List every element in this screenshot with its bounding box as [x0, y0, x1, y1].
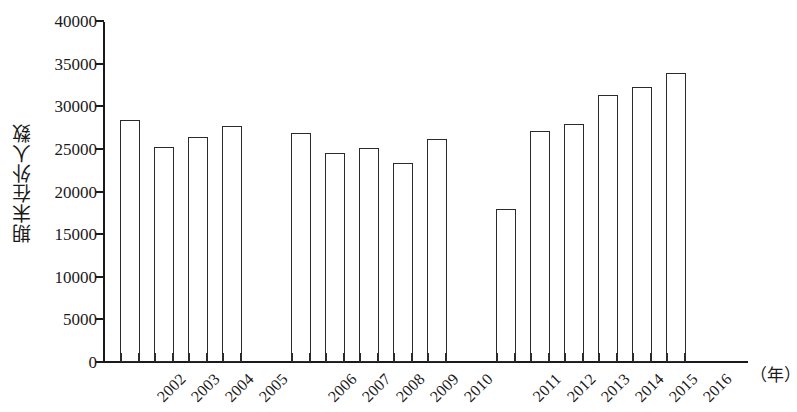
y-tick-label: 10000 [55, 268, 98, 288]
x-tick-mark [582, 353, 584, 362]
bar [291, 133, 311, 362]
x-tick-mark [393, 353, 395, 362]
y-tick-mark [96, 361, 104, 363]
y-tick-mark [96, 276, 104, 278]
x-tick-label: 2005 [256, 370, 292, 406]
x-tick-mark [359, 353, 361, 362]
x-tick-mark [427, 353, 429, 362]
x-tick-mark [411, 353, 413, 362]
y-axis-title-text: 期末在外人数 [8, 123, 35, 243]
x-tick-mark [172, 353, 174, 362]
x-tick-mark [496, 353, 498, 362]
bar [359, 148, 379, 362]
bar [666, 73, 686, 362]
x-tick-mark [188, 353, 190, 362]
bar [564, 124, 584, 362]
x-tick-label: 2002 [154, 370, 190, 406]
y-tick-label: 15000 [55, 225, 98, 245]
x-tick-mark [377, 353, 379, 362]
x-tick-mark [666, 353, 668, 362]
bar [393, 163, 413, 362]
plot-area: 0500010000150002000025000300003500040000 [103, 22, 748, 363]
x-tick-mark [445, 353, 447, 362]
x-tick-mark [154, 353, 156, 362]
y-tick-label: 40000 [55, 12, 98, 32]
x-tick-mark [120, 353, 122, 362]
bar [496, 209, 516, 362]
x-tick-mark [616, 353, 618, 362]
x-tick-label: 2016 [700, 370, 736, 406]
x-tick-mark [138, 353, 140, 362]
x-tick-mark [291, 353, 293, 362]
x-tick-label: 2004 [222, 370, 258, 406]
x-tick-mark [240, 353, 242, 362]
x-tick-label: 2009 [427, 370, 463, 406]
x-tick-label: 2003 [188, 370, 224, 406]
bar [632, 87, 652, 362]
y-tick-mark [96, 233, 104, 235]
bar [222, 126, 242, 362]
x-tick-label: 2011 [529, 370, 565, 406]
x-tick-mark [548, 353, 550, 362]
bar-chart: 期末在外人数 050001000015000200002500030000350… [0, 0, 797, 412]
y-tick-label: 5000 [63, 310, 97, 330]
x-tick-mark [343, 353, 345, 362]
bar [188, 137, 208, 362]
y-tick-mark [96, 191, 104, 193]
y-tick-label: 20000 [55, 183, 98, 203]
bar [530, 131, 550, 362]
x-tick-label: 2015 [666, 370, 702, 406]
bar [154, 147, 174, 362]
x-tick-mark [650, 353, 652, 362]
x-tick-label: 2006 [325, 370, 361, 406]
x-tick-label: 2010 [461, 370, 497, 406]
x-axis-unit-label: （年） [750, 361, 797, 386]
x-tick-mark [325, 353, 327, 362]
bar [120, 120, 140, 362]
y-tick-mark [96, 63, 104, 65]
y-tick-mark [96, 148, 104, 150]
x-tick-mark [514, 353, 516, 362]
x-tick-label: 2012 [564, 370, 600, 406]
y-tick-label: 0 [89, 353, 98, 373]
y-tick-label: 25000 [55, 140, 98, 160]
y-axis-line [103, 22, 105, 363]
bar [598, 95, 618, 362]
x-tick-mark [684, 353, 686, 362]
y-tick-mark [96, 318, 104, 320]
x-tick-label: 2008 [393, 370, 429, 406]
x-tick-mark [598, 353, 600, 362]
x-tick-mark [222, 353, 224, 362]
y-axis-title: 期末在外人数 [4, 0, 38, 365]
x-tick-label: 2007 [359, 370, 395, 406]
x-tick-label: 2014 [632, 370, 668, 406]
y-tick-label: 30000 [55, 97, 98, 117]
x-tick-mark [632, 353, 634, 362]
x-tick-mark [530, 353, 532, 362]
bar [325, 153, 345, 362]
y-tick-mark [96, 20, 104, 22]
x-tick-mark [206, 353, 208, 362]
y-tick-mark [96, 105, 104, 107]
x-tick-mark [564, 353, 566, 362]
x-tick-label: 2013 [598, 370, 634, 406]
x-tick-mark [309, 353, 311, 362]
bar [427, 139, 447, 362]
y-tick-label: 35000 [55, 55, 98, 75]
